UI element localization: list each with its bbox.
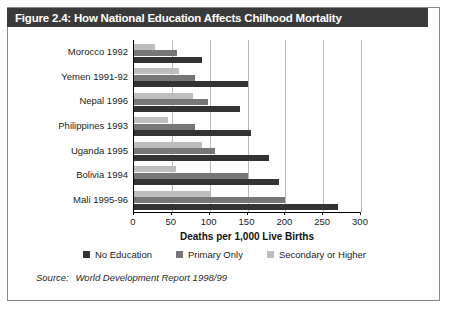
- x-tick-label: 50: [166, 216, 177, 227]
- source-note: Source: World Development Report 1998/99: [36, 272, 227, 283]
- bar-no-education: [134, 57, 202, 63]
- bar-secondary-higher: [134, 191, 210, 197]
- source-label: Source:: [36, 272, 69, 283]
- bar-primary-only: [134, 148, 215, 154]
- bar-group: [134, 163, 361, 188]
- x-tick-300: [360, 212, 361, 215]
- gridline-300: [361, 40, 362, 212]
- x-tick-100: [209, 212, 210, 215]
- bar-no-education: [134, 130, 251, 136]
- bar-group: [134, 114, 361, 139]
- x-tick-200: [284, 212, 285, 215]
- legend-swatch-icon: [176, 251, 183, 258]
- y-axis-label: Nepal 1996: [79, 95, 128, 106]
- plot-area: [133, 40, 360, 212]
- bar-primary-only: [134, 197, 285, 203]
- y-axis-label: Philippines 1993: [58, 120, 128, 131]
- y-axis-label: Bolivia 1994: [76, 169, 128, 180]
- bar-group: [134, 89, 361, 114]
- legend-label: Primary Only: [188, 249, 243, 260]
- x-tick-label: 300: [352, 216, 368, 227]
- legend-swatch-icon: [267, 251, 274, 258]
- bar-secondary-higher: [134, 117, 168, 123]
- x-axis-title: Deaths per 1,000 Live Births: [133, 231, 361, 242]
- bar-secondary-higher: [134, 93, 193, 99]
- legend-item: No Education: [83, 249, 152, 260]
- bar-no-education: [134, 179, 279, 185]
- legend-item: Secondary or Higher: [267, 249, 366, 260]
- bar-primary-only: [134, 173, 248, 179]
- legend-label: Secondary or Higher: [279, 249, 366, 260]
- x-tick-250: [322, 212, 323, 215]
- bar-secondary-higher: [134, 68, 179, 74]
- legend-swatch-icon: [83, 251, 90, 258]
- legend-item: Primary Only: [176, 249, 243, 260]
- bar-primary-only: [134, 99, 208, 105]
- bar-primary-only: [134, 75, 195, 81]
- bar-secondary-higher: [134, 166, 176, 172]
- figure-screenshot: Figure 2.4: How National Education Affec…: [0, 0, 449, 311]
- x-tick-label: 250: [314, 216, 330, 227]
- bar-group: [134, 138, 361, 163]
- figure-title: Figure 2.4: How National Education Affec…: [7, 12, 342, 24]
- bar-no-education: [134, 81, 248, 87]
- y-axis-label: Morocco 1992: [68, 46, 128, 57]
- x-tick-label: 0: [130, 216, 135, 227]
- figure-title-bar: Figure 2.4: How National Education Affec…: [7, 8, 428, 27]
- x-tick-label: 150: [239, 216, 255, 227]
- x-tick-50: [171, 212, 172, 215]
- bar-no-education: [134, 204, 338, 210]
- bar-group: [134, 65, 361, 90]
- legend-label: No Education: [95, 249, 152, 260]
- bar-no-education: [134, 106, 240, 112]
- x-tick-label: 100: [201, 216, 217, 227]
- bar-primary-only: [134, 124, 195, 130]
- chart-legend: No EducationPrimary OnlySecondary or Hig…: [0, 249, 449, 260]
- y-axis-labels: Morocco 1992Yemen 1991-92Nepal 1996Phili…: [20, 40, 128, 212]
- y-axis-label: Yemen 1991-92: [61, 71, 128, 82]
- bar-secondary-higher: [134, 44, 155, 50]
- x-tick-label: 200: [276, 216, 292, 227]
- y-axis-label: Uganda 1995: [71, 145, 128, 156]
- bar-group: [134, 40, 361, 65]
- bar-secondary-higher: [134, 142, 202, 148]
- y-axis-label: Mali 1995-96: [73, 194, 128, 205]
- bar-no-education: [134, 155, 269, 161]
- x-tick-0: [133, 212, 134, 215]
- x-tick-150: [247, 212, 248, 215]
- bar-group: [134, 187, 361, 212]
- bar-primary-only: [134, 50, 177, 56]
- source-value: World Development Report 1998/99: [75, 272, 227, 283]
